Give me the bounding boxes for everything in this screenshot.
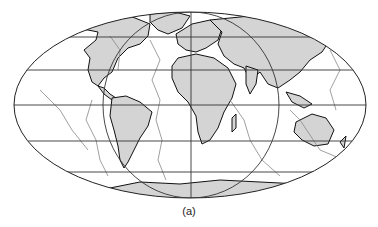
figure-caption: (a)	[0, 205, 378, 217]
madagascar	[232, 114, 236, 132]
world-map	[0, 0, 378, 227]
